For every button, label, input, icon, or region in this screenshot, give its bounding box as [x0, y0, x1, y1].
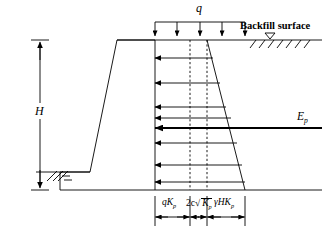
surcharge-load-group	[155, 22, 245, 36]
dim-label-qkp-expr: qK	[162, 197, 173, 207]
pressure-slope-line	[207, 40, 245, 190]
excavation-hatch-tail	[62, 176, 72, 180]
sqrt-icon: √	[195, 199, 200, 209]
backfill-hatch-1	[250, 40, 256, 48]
dim-label-qkp-sub: p	[173, 202, 176, 209]
backfill-hatch-2	[259, 40, 265, 48]
wall-height-label: H	[35, 105, 44, 117]
dim-label-cohesion-radicand: Kp	[201, 198, 211, 210]
backfill-level-triangle-icon	[265, 33, 275, 39]
backfill-surface-label: Backfill surface	[240, 21, 310, 32]
backfill-hatch-7	[304, 40, 310, 48]
excavation-hatch-1	[47, 171, 57, 181]
Ep-subscript: p	[304, 116, 308, 125]
figure-canvas: q Backfill surface H Ep qKp 2c√Kp γHKp	[0, 0, 330, 234]
backfill-hatch-6	[295, 40, 301, 48]
pressure-arrows-group	[155, 58, 245, 182]
dim-label-weight-expr: γHK	[214, 197, 231, 207]
backfill-surface-group	[117, 40, 322, 48]
backfill-hatch-5	[286, 40, 292, 48]
backfill-hatch-4	[277, 40, 283, 48]
pressure-diagram-outline	[207, 40, 245, 190]
dim-label-weight: γHKp	[214, 198, 234, 209]
dim-label-cohesion-prefix: 2c	[186, 198, 195, 208]
surcharge-label: q	[196, 2, 202, 14]
resultant-force-label: Ep	[297, 111, 308, 125]
Ep-letter: E	[297, 110, 304, 122]
excavation-hatch-2	[53, 171, 63, 181]
dim-label-cohesion: 2c√Kp	[186, 198, 212, 210]
backfill-hatch-3	[268, 40, 274, 48]
retaining-wall	[60, 40, 155, 190]
wall-front-slope	[90, 40, 117, 172]
pressure-reference-lines	[190, 40, 207, 190]
dim-label-qkp: qKp	[162, 198, 176, 209]
dim-label-weight-sub: p	[231, 202, 234, 209]
excavation-ground-group	[36, 171, 90, 181]
